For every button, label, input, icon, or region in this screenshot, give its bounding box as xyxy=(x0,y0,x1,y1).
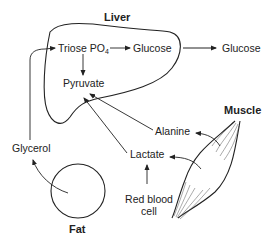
liver-outline xyxy=(44,24,180,124)
red-blood-cell-label: Red blood cell xyxy=(124,193,174,217)
glucose-blood-label: Glucose xyxy=(222,42,261,54)
alanine-label: Alanine xyxy=(155,125,190,137)
glycerol-label: Glycerol xyxy=(12,142,51,154)
pyruvate-label: Pyruvate xyxy=(63,77,104,89)
lactate-label: Lactate xyxy=(130,148,164,160)
liver-label: Liver xyxy=(104,11,130,23)
triose-po4-subscript: 4 xyxy=(105,48,109,55)
arrow-glycerol-to-triose xyxy=(30,48,55,140)
muscle-label: Muscle xyxy=(224,104,261,116)
triose-po4-label: Triose PO4 xyxy=(58,42,109,58)
red-blood-cell-line2: cell xyxy=(124,205,174,217)
fat-circle xyxy=(51,164,105,218)
arrow-alanine-to-pyruvate xyxy=(90,94,153,130)
triose-po4-text: Triose PO xyxy=(58,42,105,54)
red-blood-cell-line1: Red blood xyxy=(124,193,174,205)
glucose-liver-label: Glucose xyxy=(133,42,172,54)
arrow-lactate-to-pyruvate xyxy=(84,98,127,153)
fat-label: Fat xyxy=(69,223,86,235)
arrow-fat-to-glycerol xyxy=(33,160,68,193)
arrow-muscle-to-lactate xyxy=(170,157,201,169)
